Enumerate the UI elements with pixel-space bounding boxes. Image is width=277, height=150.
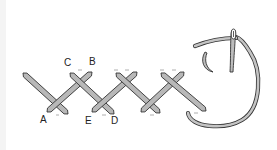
- stitch-4-back: [161, 73, 206, 111]
- stitch-1-back: [23, 73, 68, 114]
- label-B: B: [89, 57, 96, 67]
- label-E: E: [85, 116, 92, 126]
- stitch-2-back: [70, 73, 114, 114]
- stitch-1-front: [47, 72, 92, 112]
- label-D: D: [111, 116, 118, 126]
- stitch-2-front: [92, 72, 137, 112]
- curved-arrow-icon: [203, 52, 213, 72]
- working-thread-loop: [188, 37, 258, 126]
- stitch-3-back: [116, 73, 160, 113]
- label-A: A: [40, 115, 47, 125]
- stitch-group: [23, 72, 206, 114]
- label-C: C: [64, 58, 71, 68]
- needle-icon: [230, 29, 236, 72]
- herringbone-stitch-diagram: [0, 0, 277, 150]
